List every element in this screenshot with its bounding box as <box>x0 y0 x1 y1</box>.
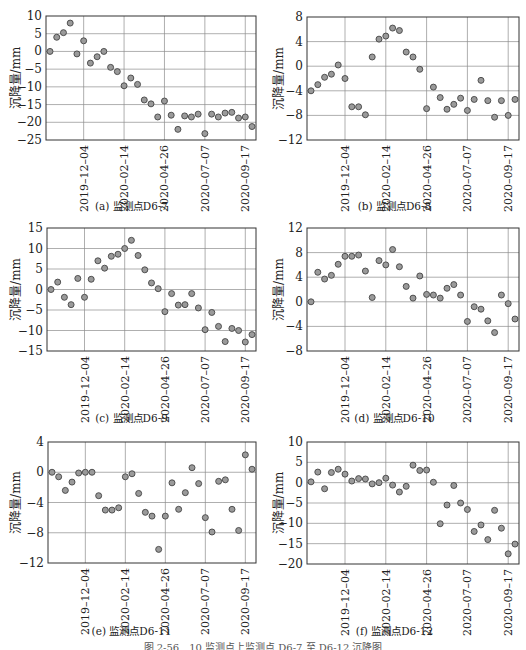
data-point <box>229 325 235 331</box>
y-tick-label: −15 <box>18 344 43 358</box>
data-point <box>56 474 62 480</box>
y-tick-label: −4 <box>26 496 44 510</box>
y-tick-label: −5 <box>25 303 43 317</box>
data-point <box>169 480 175 486</box>
y-tick-label: −4 <box>285 319 303 333</box>
chart-panel-f: 1050−5−10−15−202019–12–042020–02–142020–… <box>263 430 526 645</box>
data-point <box>498 525 504 531</box>
chart-panel-c: 151050−5−10−152019–12–042020–02–142020–0… <box>0 215 263 430</box>
plot-frame <box>307 17 519 140</box>
data-point <box>417 467 423 473</box>
y-tick-label: −10 <box>18 324 43 338</box>
scatter-plot-d6-7: 1050−5−10−15−20−252019–12–042020–02–1420… <box>0 0 263 215</box>
data-point <box>362 476 368 482</box>
data-point <box>209 529 215 535</box>
data-point <box>161 98 167 104</box>
data-point <box>390 25 396 31</box>
y-tick-label: −5 <box>24 62 42 76</box>
data-point <box>129 471 135 477</box>
y-tick-label: −12 <box>278 133 303 147</box>
data-point <box>471 96 477 102</box>
data-point <box>396 264 402 270</box>
data-point <box>82 294 88 300</box>
data-point <box>383 262 389 268</box>
data-point <box>142 509 148 515</box>
data-point <box>369 481 375 487</box>
scatter-plot-d6-9: 151050−5−10−152019–12–042020–02–142020–0… <box>0 215 263 430</box>
data-point <box>101 48 107 54</box>
figure-caption: 图 2-56 10 监测点上监测点 D6-7 至 D6-12 沉降图 <box>0 639 526 650</box>
data-point <box>403 49 409 55</box>
y-tick-label: 15 <box>28 221 43 235</box>
data-point <box>342 253 348 259</box>
data-point <box>458 95 464 101</box>
data-point <box>68 302 74 308</box>
data-point <box>430 479 436 485</box>
data-point <box>335 466 341 472</box>
data-point <box>149 513 155 519</box>
data-point <box>189 465 195 471</box>
data-point <box>108 253 114 259</box>
data-point <box>162 513 168 519</box>
data-point <box>464 318 470 324</box>
y-tick-label: 10 <box>288 435 303 449</box>
y-tick-label: 8 <box>295 10 303 24</box>
data-point <box>47 48 53 54</box>
data-point <box>505 551 511 557</box>
data-point <box>149 280 155 286</box>
data-point <box>471 304 477 310</box>
y-axis-label: 沉降量/mm <box>9 470 23 533</box>
y-axis-label: 沉降量/mm <box>272 471 286 534</box>
scatter-plot-d6-11: 40−4−8−122019–12–042020–02–142020–04–262… <box>0 430 263 645</box>
data-point <box>430 292 436 298</box>
y-tick-label: −8 <box>285 108 303 122</box>
data-point <box>512 541 518 547</box>
data-point <box>410 462 416 468</box>
chart-caption-f: (f) 监测点D6-12 <box>263 623 526 638</box>
y-tick-label: −4 <box>285 84 303 98</box>
data-point <box>54 34 60 40</box>
data-point <box>202 515 208 521</box>
data-point <box>216 323 222 329</box>
data-point <box>122 474 128 480</box>
data-point <box>222 110 228 116</box>
data-point <box>464 507 470 513</box>
data-point <box>55 279 61 285</box>
data-point <box>458 292 464 298</box>
data-point <box>356 476 362 482</box>
chart-panel-e: 40−4−8−122019–12–042020–02–142020–04–262… <box>0 430 263 645</box>
data-point <box>315 469 321 475</box>
data-point <box>308 479 314 485</box>
plot-frame <box>46 16 256 140</box>
data-point <box>356 104 362 110</box>
data-point <box>49 469 55 475</box>
y-tick-label: 5 <box>34 27 42 41</box>
data-point <box>182 490 188 496</box>
scatter-plot-d6-12: 1050−5−10−15−202019–12–042020–02–142020–… <box>263 430 526 645</box>
data-point <box>492 114 498 120</box>
data-point <box>69 479 75 485</box>
data-point <box>376 36 382 42</box>
y-tick-label: −20 <box>17 115 42 129</box>
data-point <box>176 506 182 512</box>
data-point <box>74 51 80 57</box>
data-point <box>410 54 416 60</box>
y-tick-label: 12 <box>288 221 303 235</box>
data-point <box>362 268 368 274</box>
data-point <box>236 115 242 121</box>
data-point <box>396 28 402 34</box>
data-point <box>424 106 430 112</box>
data-point <box>156 546 162 552</box>
chart-caption-c: (c) 监测点D6-9 <box>0 410 263 425</box>
data-point <box>196 481 202 487</box>
chart-panel-a: 1050−5−10−15−20−252019–12–042020–02–1420… <box>0 0 263 215</box>
data-point <box>342 471 348 477</box>
data-point <box>168 112 174 118</box>
data-point <box>142 267 148 273</box>
data-point <box>222 477 228 483</box>
data-point <box>437 95 443 101</box>
data-point <box>209 111 215 117</box>
y-axis-label: 沉降量/mm <box>272 46 286 109</box>
data-point <box>492 507 498 513</box>
data-point <box>122 246 128 252</box>
